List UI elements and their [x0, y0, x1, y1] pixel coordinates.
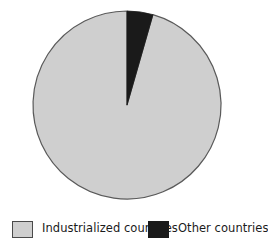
legend-swatch-other: [148, 221, 169, 238]
pie-svg: [0, 0, 268, 210]
legend-item-other-countries: Other countries: [148, 214, 268, 244]
legend-label-other: Other countries: [178, 223, 268, 235]
pie-chart-figure: Industrialized countries Other countries: [0, 0, 268, 252]
pie-plot-area: [0, 0, 268, 210]
legend-swatch-industrialized: [12, 221, 33, 238]
chart-legend: Industrialized countries Other countries: [0, 214, 268, 252]
